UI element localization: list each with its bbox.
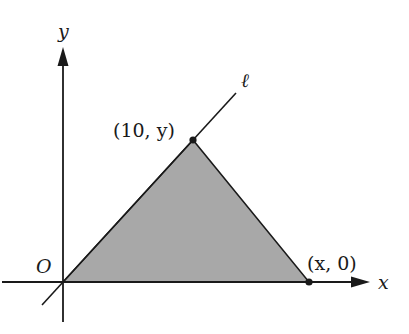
shaded-triangle	[63, 140, 309, 282]
x-intercept-point	[305, 278, 312, 285]
x-intercept-label: (x, 0)	[307, 252, 357, 274]
y-axis-arrow-icon	[58, 47, 69, 66]
x-axis-label: x	[378, 271, 389, 293]
line-l-label: ℓ	[241, 69, 249, 91]
apex-label: (10, y)	[113, 119, 175, 141]
triangle-diagram: y x O ℓ (10, y) (x, 0)	[0, 0, 409, 334]
origin-label: O	[36, 255, 52, 277]
apex-point	[189, 136, 196, 143]
y-axis-label: y	[57, 20, 69, 42]
x-axis-arrow-icon	[351, 277, 370, 288]
